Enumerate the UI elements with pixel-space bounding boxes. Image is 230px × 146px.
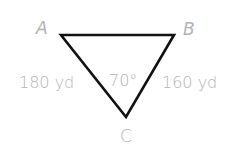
- vertex-label-c: C: [120, 126, 132, 146]
- vertex-label-b: B: [183, 19, 195, 39]
- vertex-label-a: A: [35, 18, 48, 38]
- triangle-diagram: A B C 180 yd 70° 160 yd: [0, 0, 230, 146]
- angle-c-measure: 70°: [109, 71, 137, 90]
- side-length-bc: 160 yd: [162, 73, 217, 92]
- side-length-ac: 180 yd: [19, 73, 74, 92]
